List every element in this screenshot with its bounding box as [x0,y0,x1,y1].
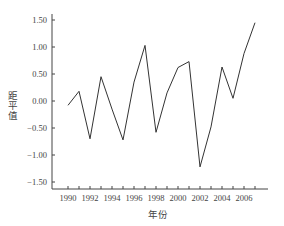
axes [52,14,268,189]
x-tick-label: 1994 [104,193,122,203]
y-tick-label: −1.50 [27,177,47,187]
y-tick-label: −0.50 [27,123,47,133]
y-tick-label: 1.00 [32,42,47,52]
x-tick-label: 2004 [214,193,232,203]
x-tick-label: 1992 [82,193,99,203]
y-tick-label: 0.50 [32,69,47,79]
x-tick-label: 2002 [192,193,209,203]
line-chart: 1.501.000.500.00−0.50−1.00−1.50 19901992… [0,0,284,226]
x-tick-label: 2000 [170,193,187,203]
x-tick-label: 2006 [236,193,253,203]
x-tick-label: 1996 [126,193,143,203]
y-tick-label: 1.50 [32,15,47,25]
y-tick-label: −1.00 [27,150,47,160]
y-tick-label: 0.00 [32,96,47,106]
x-tick-label: 1998 [148,193,165,203]
data-line [68,23,255,167]
y-axis-ticks: 1.501.000.500.00−0.50−1.00−1.50 [27,15,55,187]
x-axis-title: 年份 [148,209,168,220]
y-axis-title: 距平值 [7,91,18,121]
x-tick-label: 1990 [60,193,77,203]
